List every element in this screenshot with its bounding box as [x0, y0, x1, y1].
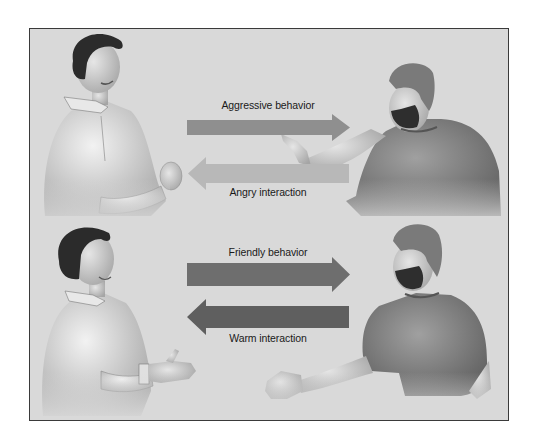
person-top-left	[30, 29, 182, 229]
person-bottom-left	[30, 226, 200, 420]
label-friendly-behavior: Friendly behavior	[229, 246, 308, 258]
label-aggressive-behavior: Aggressive behavior	[221, 99, 314, 111]
illustration-layer	[30, 29, 508, 420]
arrow-aggressive-behavior	[187, 114, 350, 141]
diagram-frame: Aggressive behavior Angry interaction Fr…	[29, 28, 509, 421]
label-warm-interaction: Warm interaction	[229, 332, 306, 344]
label-angry-interaction: Angry interaction	[229, 186, 306, 198]
